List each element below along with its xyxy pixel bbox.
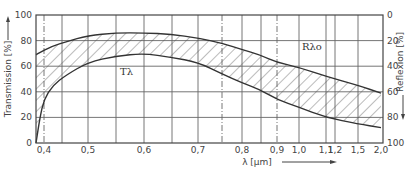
x-tick-label: 0,5	[81, 145, 95, 155]
y-left-tick-label: 0	[26, 138, 32, 148]
y-right-tick-label: 0	[387, 10, 393, 20]
y-left-axis-label: Transmission [%]	[3, 41, 13, 119]
y-left-tick-label: 20	[21, 112, 33, 122]
y-left-tick-label: 100	[15, 10, 32, 20]
y-right-arrowhead-icon	[401, 114, 405, 120]
y-left-arrowhead-icon	[6, 16, 10, 22]
x-tick-label: 0,8	[235, 145, 250, 155]
x-tick-label: 1,5	[351, 145, 365, 155]
y-left-tick-label: 60	[21, 61, 33, 71]
x-tick-label: 1,0	[292, 145, 307, 155]
r-lambda-label: Rλo	[302, 41, 322, 52]
y-left-tick-label: 80	[21, 36, 33, 46]
y-right-tick-label: 80	[387, 112, 399, 122]
x-tick-label: 0,7	[191, 145, 205, 155]
y-left-tick-labels: 020406080100	[15, 10, 32, 148]
x-tick-label: 0,9	[270, 145, 285, 155]
transmission-reflexion-chart: 0,40,50,60,70,80,91,01,11,21,52,0 020406…	[0, 0, 416, 178]
x-tick-labels: 0,40,50,60,70,80,91,01,11,21,52,0	[37, 145, 389, 155]
x-tick-label: 0,6	[137, 145, 152, 155]
x-tick-label: 1,2	[328, 145, 342, 155]
y-right-axis-label: Reflexion [%]	[395, 32, 405, 92]
y-left-tick-label: 40	[21, 87, 33, 97]
y-right-tick-label: 100	[387, 138, 404, 148]
t-lambda-label: Tλ	[120, 66, 134, 77]
x-axis-label: λ [µm]	[242, 157, 272, 167]
x-tick-label: 0,4	[37, 145, 52, 155]
x-axis-arrowhead-icon	[330, 160, 337, 164]
